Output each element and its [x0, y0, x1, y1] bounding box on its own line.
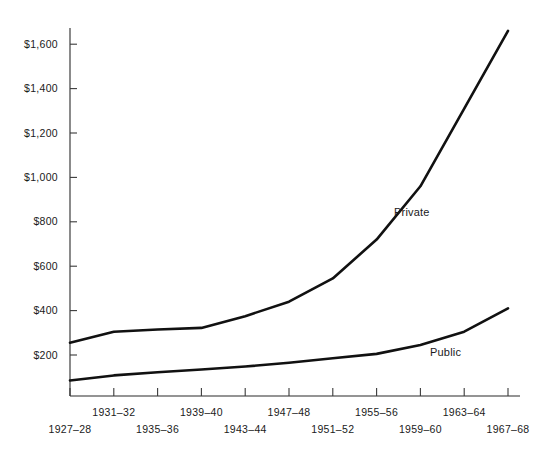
y-axis-tick-label: $800 — [33, 215, 58, 227]
y-axis-tick-label: $200 — [33, 349, 58, 361]
line-chart: $200$400$600$800$1,000$1,200$1,400$1,600… — [0, 0, 537, 452]
y-tick-labels-group: $200$400$600$800$1,000$1,200$1,400$1,600 — [24, 38, 58, 361]
y-axis-tick-label: $1,600 — [24, 38, 58, 50]
y-axis-tick-label: $400 — [33, 304, 58, 316]
x-axis-tick-label: 1927–28 — [49, 423, 92, 435]
series-annotation-private: Private — [394, 206, 430, 218]
x-axis-tick-label: 1955–56 — [355, 406, 398, 418]
axes-group — [70, 28, 520, 396]
x-axis-tick-label: 1951–52 — [311, 423, 354, 435]
x-axis-tick-label: 1963–64 — [443, 406, 486, 418]
x-axis-tick-label: 1967–68 — [487, 423, 530, 435]
series-line-public — [70, 308, 508, 380]
x-axis-tick-label: 1943–44 — [224, 423, 267, 435]
chart-container: $200$400$600$800$1,000$1,200$1,400$1,600… — [0, 0, 537, 452]
x-axis-tick-label: 1931–32 — [92, 406, 135, 418]
y-axis-tick-label: $1,200 — [24, 127, 58, 139]
x-axis-tick-label: 1935–36 — [136, 423, 179, 435]
series-annotation-public: Public — [430, 346, 461, 358]
x-axis-tick-label: 1939–40 — [180, 406, 223, 418]
series-line-private — [70, 31, 508, 343]
x-tick-labels-group: 1927–281931–321935–361939–401943–441947–… — [49, 406, 530, 435]
x-axis-tick-label: 1947–48 — [268, 406, 311, 418]
y-axis-tick-label: $600 — [33, 260, 58, 272]
y-axis-tick-label: $1,000 — [24, 171, 58, 183]
x-axis-tick-label: 1959–60 — [399, 423, 442, 435]
series-group — [70, 31, 508, 381]
y-axis-tick-label: $1,400 — [24, 82, 58, 94]
